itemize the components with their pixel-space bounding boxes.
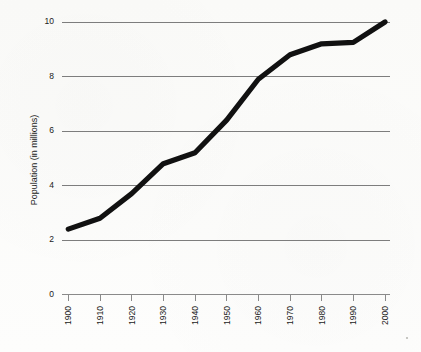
- x-tick-label-1940: 1940: [190, 306, 200, 325]
- y-tick-labels-group: 10 8 6 4 2 0: [45, 16, 55, 299]
- x-tick-label-1990: 1990: [348, 306, 358, 325]
- x-tick-label-1920: 1920: [127, 306, 137, 325]
- y-tick-label-10: 10: [45, 16, 55, 26]
- y-axis-title: Population (in millions): [29, 115, 39, 206]
- x-tick-label-1980: 1980: [317, 306, 327, 325]
- y-tick-label-0: 0: [49, 289, 54, 299]
- scan-speck: [406, 337, 408, 339]
- x-tick-label-1950: 1950: [222, 306, 232, 325]
- x-tick-label-1910: 1910: [95, 306, 105, 325]
- y-tick-label-2: 2: [49, 234, 54, 244]
- x-tick-label-1930: 1930: [158, 306, 168, 325]
- line-chart-figure: 10 8 6 4 2 0 Population (in millions) 19…: [0, 0, 421, 352]
- x-tick-label-2000: 2000: [380, 306, 390, 325]
- x-tick-label-1900: 1900: [63, 306, 73, 325]
- x-tickmarks-group: [68, 295, 385, 301]
- x-tick-labels-group: 1900 1910 1920 1930 1940 1950 1960 1970 …: [63, 306, 390, 325]
- x-tick-label-1970: 1970: [285, 306, 295, 325]
- y-tick-label-6: 6: [49, 125, 54, 135]
- y-tick-label-8: 8: [49, 71, 54, 81]
- y-tick-label-4: 4: [49, 180, 54, 190]
- population-line-series: [68, 22, 385, 229]
- x-tick-label-1960: 1960: [253, 306, 263, 325]
- chart-canvas: 10 8 6 4 2 0 Population (in millions) 19…: [0, 0, 421, 352]
